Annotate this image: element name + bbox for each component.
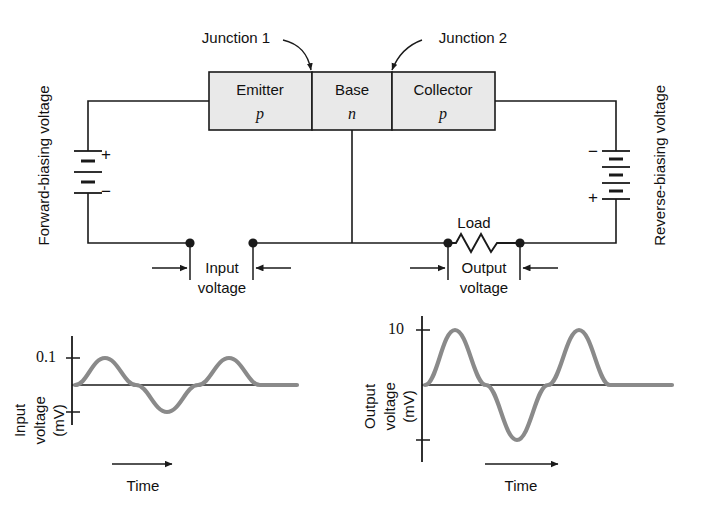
- wire-emitter-to-left-battery: [88, 101, 209, 151]
- output-plot-ylabel-line1: Output: [362, 384, 379, 429]
- input-plot-ylabel-line2: voltage: [32, 396, 49, 444]
- wire-right-battery-to-output-node: [520, 209, 616, 243]
- wire-left-battery-to-input-node: [88, 203, 190, 243]
- output-waveform-plot: [416, 316, 672, 464]
- figure-root: Junction 1 Junction 2 Emitter p Base n C…: [0, 0, 703, 526]
- right-battery-plus-sign: +: [588, 188, 598, 207]
- load-label: Load: [457, 215, 490, 232]
- output-plot-xlabel: Time: [505, 478, 538, 495]
- input-plot-ytick-label: 0.1: [36, 348, 56, 366]
- junction-2-leader: [392, 40, 422, 70]
- collector-label: Collector: [413, 82, 472, 99]
- collector-doping-label: p: [439, 105, 447, 123]
- output-plot-ytick-label: 10: [388, 320, 404, 338]
- junction-1-label: Junction 1: [202, 30, 270, 47]
- load-resistor-symbol: [448, 234, 520, 252]
- left-battery-minus-sign: −: [101, 182, 111, 201]
- input-voltage-label-line1: Input: [205, 260, 238, 277]
- emitter-label: Emitter: [236, 82, 284, 99]
- reverse-bias-battery-symbol: [602, 151, 630, 209]
- circuit-and-waveform-svg: [0, 0, 703, 526]
- base-label: Base: [335, 82, 369, 99]
- right-battery-minus-sign: −: [588, 142, 598, 161]
- input-voltage-label-line2: voltage: [198, 280, 246, 297]
- junction-2-label: Junction 2: [439, 30, 507, 47]
- input-waveform-plot: [66, 336, 297, 464]
- junction-1-leader: [283, 40, 311, 70]
- output-plot-ylabel-line2: voltage: [382, 382, 399, 430]
- output-voltage-label-line1: Output: [461, 260, 506, 277]
- base-doping-label: n: [348, 105, 356, 123]
- forward-biasing-voltage-label: Forward-biasing voltage: [36, 85, 53, 245]
- output-voltage-label-line2: voltage: [460, 280, 508, 297]
- emitter-doping-label: p: [256, 105, 264, 123]
- input-plot-xlabel: Time: [127, 478, 160, 495]
- input-plot-ylabel-line1: Input: [12, 404, 29, 437]
- input-plot-ylabel-line3: (mV): [51, 404, 68, 437]
- output-plot-ylabel-line3: (mV): [401, 390, 418, 423]
- forward-bias-battery-symbol: [74, 151, 102, 203]
- left-battery-plus-sign: +: [101, 145, 111, 164]
- reverse-biasing-voltage-label: Reverse-biasing voltage: [652, 85, 669, 246]
